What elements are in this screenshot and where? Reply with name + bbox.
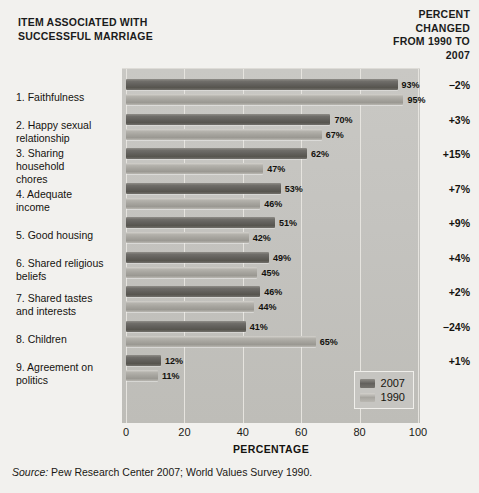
bar-2007-8 — [126, 321, 246, 332]
percent-changed-8: −24% — [443, 321, 470, 333]
percent-changed-9: +1% — [449, 355, 470, 367]
bar-value-1990-9: 11% — [162, 371, 180, 382]
percent-changed-4: +7% — [449, 183, 470, 195]
category-label-8: 8. Children — [16, 333, 124, 346]
bar-value-1990-6: 45% — [261, 268, 279, 279]
bar-1990-9 — [126, 370, 158, 381]
category-label-6: 6. Shared religious beliefs — [16, 257, 124, 283]
bar-1990-8 — [126, 336, 316, 347]
x-tick-20: 20 — [178, 426, 190, 438]
bar-2007-3 — [126, 148, 307, 159]
bar-2007-2 — [126, 114, 330, 125]
gridline-80 — [360, 69, 361, 423]
bar-1990-6 — [126, 267, 257, 278]
x-axis-title: PERCENTAGE — [122, 443, 420, 455]
x-axis-tick-labels: 020406080100 — [122, 426, 432, 442]
bar-value-1990-3: 47% — [267, 164, 285, 175]
bar-value-2007-8: 41% — [250, 322, 268, 333]
bar-value-2007-6: 49% — [273, 253, 291, 264]
bar-2007-4 — [126, 183, 281, 194]
percent-changed-3: +15% — [443, 148, 470, 160]
x-tick-100: 100 — [409, 426, 427, 438]
bar-value-1990-8: 65% — [320, 337, 338, 348]
legend-item-1990: 1990 — [360, 390, 405, 404]
legend-swatch-2007 — [360, 379, 375, 388]
x-tick-0: 0 — [123, 426, 129, 438]
bar-value-2007-7: 46% — [264, 287, 282, 298]
percent-changed-column: −2%+3%+15%+7%+9%+4%+2%−24%+1% — [420, 68, 479, 423]
bar-value-2007-9: 12% — [165, 356, 183, 367]
percent-changed-6: +4% — [449, 252, 470, 264]
category-label-1: 1. Faithfulness — [16, 91, 124, 104]
bar-2007-6 — [126, 252, 269, 263]
bar-value-1990-5: 42% — [253, 233, 271, 244]
bar-value-2007-2: 70% — [334, 115, 352, 126]
legend-label-1990: 1990 — [381, 391, 405, 403]
bar-2007-9 — [126, 355, 161, 366]
percent-changed-7: +2% — [449, 286, 470, 298]
bar-value-2007-4: 53% — [285, 184, 303, 195]
bar-1990-2 — [126, 129, 322, 140]
bar-2007-1 — [126, 79, 398, 90]
category-label-9: 9. Agreement on politics — [16, 361, 124, 387]
legend-label-2007: 2007 — [381, 377, 405, 389]
chart-figure: ITEM ASSOCIATED WITH SUCCESSFUL MARRIAGE… — [0, 0, 479, 493]
chart-right-header: PERCENT CHANGED FROM 1990 TO 2007 — [384, 8, 470, 62]
source-text: Pew Research Center 2007; World Values S… — [48, 466, 312, 478]
category-label-7: 7. Shared tastes and interests — [16, 292, 124, 318]
category-label-3: 3. Sharing household chores — [16, 147, 124, 186]
chart-left-header: ITEM ASSOCIATED WITH SUCCESSFUL MARRIAGE — [18, 16, 168, 43]
percent-changed-5: +9% — [449, 217, 470, 229]
x-tick-40: 40 — [237, 426, 249, 438]
category-label-5: 5. Good housing — [16, 229, 124, 242]
source-label: Source: — [12, 466, 48, 478]
legend-item-2007: 2007 — [360, 376, 405, 390]
legend-swatch-1990 — [360, 393, 375, 402]
plot-area: 93%95%70%67%62%47%53%46%51%42%49%45%46%4… — [122, 68, 420, 423]
bar-2007-5 — [126, 217, 275, 228]
bar-1990-1 — [126, 94, 403, 105]
bar-1990-7 — [126, 301, 254, 312]
bar-1990-4 — [126, 198, 260, 209]
percent-changed-2: +3% — [449, 114, 470, 126]
gridline-100 — [418, 69, 419, 423]
bar-1990-3 — [126, 163, 263, 174]
bar-value-1990-4: 46% — [264, 199, 282, 210]
bar-value-2007-3: 62% — [311, 149, 329, 160]
bar-value-2007-1: 93% — [402, 80, 420, 91]
x-tick-80: 80 — [353, 426, 365, 438]
bar-value-1990-7: 44% — [258, 302, 276, 313]
category-label-column: 1. Faithfulness2. Happy sexual relations… — [0, 68, 122, 423]
percent-changed-1: −2% — [449, 79, 470, 91]
x-tick-60: 60 — [295, 426, 307, 438]
category-label-4: 4. Adequate income — [16, 188, 124, 214]
bar-value-1990-2: 67% — [326, 130, 344, 141]
bar-1990-5 — [126, 232, 249, 243]
chart-legend: 2007 1990 — [354, 371, 414, 409]
bar-value-2007-5: 51% — [279, 218, 297, 229]
source-note: Source: Pew Research Center 2007; World … — [12, 466, 312, 478]
category-label-2: 2. Happy sexual relationship — [16, 119, 124, 145]
bar-2007-7 — [126, 286, 260, 297]
